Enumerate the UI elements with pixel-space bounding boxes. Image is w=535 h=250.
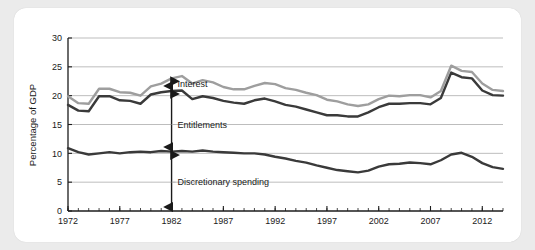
y-tick-label: 25 [52,62,62,72]
annotation-label-discretionary: Discretionary spending [178,177,270,187]
gdp-spending-chart: 051015202530 197219771982198719921997200… [0,0,535,250]
annotation-label-entitlements: Entitlements [178,120,228,130]
x-tick-label: 1982 [162,216,182,226]
y-tick-label: 15 [52,120,62,130]
y-tick-label: 20 [52,91,62,101]
annotation-label-interest: Interest [178,79,209,89]
y-tick-label: 10 [52,149,62,159]
x-tick-label: 1992 [265,216,285,226]
y-tick-label: 0 [57,206,62,216]
x-tick-label: 1997 [317,216,337,226]
y-tick-labels: 051015202530 [52,33,62,216]
x-tick-label: 1972 [58,216,78,226]
y-tick-label: 30 [52,33,62,43]
y-axis-title: Percentage of GDP [27,84,38,166]
x-tick-label: 1977 [110,216,130,226]
x-tick-labels: 197219771982198719921997200220072012 [58,216,492,226]
x-tick-label: 2007 [420,216,440,226]
y-tick-label: 5 [57,177,62,187]
x-tick-label: 2002 [369,216,389,226]
x-tick-label: 1987 [213,216,233,226]
x-tick-label: 2012 [472,216,492,226]
series-line-discretionary [68,148,503,172]
